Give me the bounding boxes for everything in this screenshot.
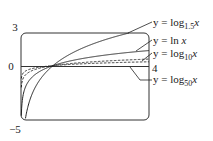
y-min-label: −5 — [9, 123, 21, 135]
label-ln: y = ln x — [153, 34, 187, 46]
log-graph: 3 0 −5 4 y = log1.5x y = ln x y = log10x… — [0, 0, 213, 141]
curve-3 — [21, 62, 149, 79]
viewing-window — [21, 33, 149, 120]
label-log10: y = log10x — [153, 47, 197, 62]
curves — [21, 33, 149, 118]
y-zero-label: 0 — [8, 60, 14, 72]
y-max-label: 3 — [12, 21, 18, 33]
leader-line-2 — [142, 53, 152, 61]
label-log15: y = log1.5x — [153, 16, 199, 31]
leader-line-0 — [128, 22, 152, 33]
leader-line-1 — [136, 40, 152, 51]
curve-0 — [25, 33, 128, 118]
label-log50: y = log50x — [153, 73, 197, 88]
curve-1 — [21, 51, 149, 116]
